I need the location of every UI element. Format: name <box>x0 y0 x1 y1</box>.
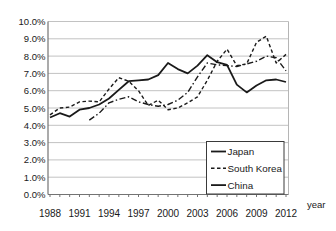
series-south-korea-line <box>50 36 286 115</box>
x-tick-label: 2009 <box>245 208 268 219</box>
y-tick-label: 3.0% <box>24 137 46 148</box>
x-tick-label: 1994 <box>98 208 121 219</box>
legend-label-china: China <box>228 180 254 191</box>
y-tick-label: 0.0% <box>24 189 46 200</box>
x-axis-title: year <box>307 199 325 210</box>
y-tick-label: 2.0% <box>24 154 46 165</box>
y-tick-label: 8.0% <box>24 51 46 62</box>
y-tick-label: 10.0% <box>19 16 46 27</box>
line-chart-svg: year 10.0%9.0%8.0%7.0%6.0%5.0%4.0%3.0%2.… <box>0 0 336 231</box>
x-tick-label: 1988 <box>39 208 62 219</box>
y-tick-label: 4.0% <box>24 120 46 131</box>
y-tick-label: 1.0% <box>24 172 46 183</box>
y-tick-label: 9.0% <box>24 33 46 44</box>
x-tick-label: 2000 <box>157 208 180 219</box>
y-tick-label: 7.0% <box>24 68 46 79</box>
chart-figure: year 10.0%9.0%8.0%7.0%6.0%5.0%4.0%3.0%2.… <box>0 0 336 231</box>
x-tick-label: 1991 <box>68 208 91 219</box>
x-tick-label: 2006 <box>216 208 239 219</box>
x-tick-label: 2003 <box>186 208 209 219</box>
legend-label-south-korea: South Korea <box>228 163 283 174</box>
series-china-line <box>89 56 286 120</box>
x-tick-label: 2012 <box>275 208 298 219</box>
legend-label-japan: Japan <box>228 146 255 157</box>
y-tick-label: 6.0% <box>24 85 46 96</box>
y-tick-label: 5.0% <box>24 103 46 114</box>
x-tick-label: 1997 <box>127 208 150 219</box>
